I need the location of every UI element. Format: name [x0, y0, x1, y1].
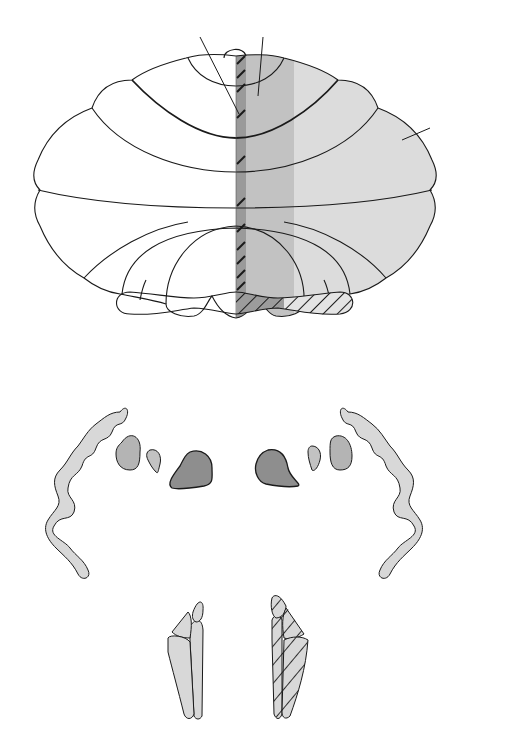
dentate-nucleus-right — [340, 408, 422, 578]
vestibular-left-superior — [172, 612, 191, 638]
deep-cerebellar-nuclei — [46, 408, 423, 578]
vestibular-left-lateral — [168, 636, 194, 719]
emboliform-nucleus-right — [330, 436, 352, 470]
small-fold-left — [140, 280, 146, 300]
globose-nucleus-left — [147, 450, 161, 473]
emboliform-nucleus-left — [116, 436, 140, 470]
vestibular-nuclei — [168, 596, 308, 719]
vestibular-right-hatching — [272, 596, 308, 719]
cerebellum-surface — [34, 40, 446, 330]
fastigial-nucleus-right — [255, 450, 298, 487]
fastigial-nucleus-left — [170, 451, 212, 489]
leader-vermis — [200, 37, 239, 114]
cerebellum-diagram — [0, 0, 510, 729]
dentate-nucleus-left — [46, 408, 128, 578]
globose-nucleus-right — [308, 446, 321, 471]
folium-left-low — [84, 222, 188, 278]
vestibular-left-top — [192, 602, 203, 622]
vestibular-right-group — [271, 596, 308, 719]
